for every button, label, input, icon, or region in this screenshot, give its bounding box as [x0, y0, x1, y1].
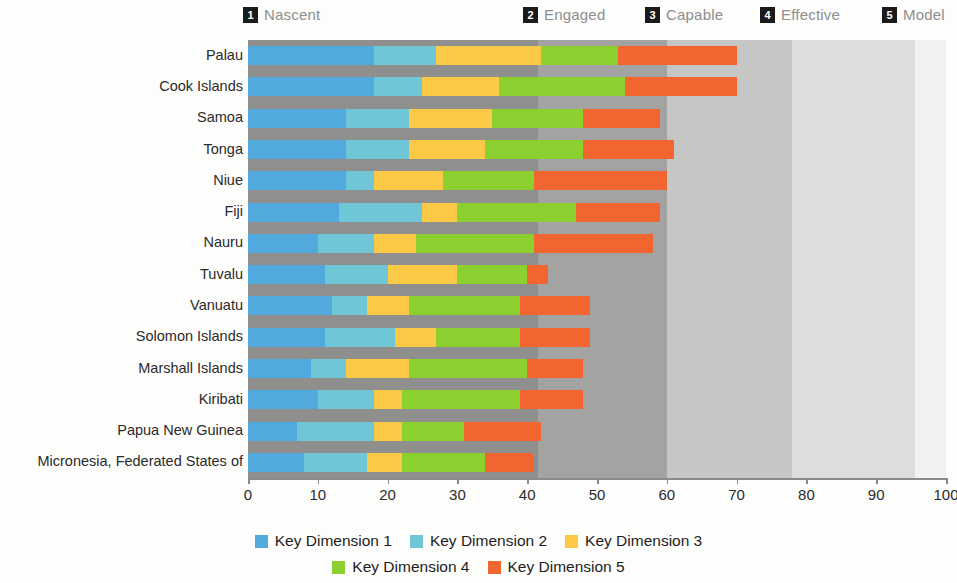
legend-item[interactable]: Key Dimension 2 [410, 532, 547, 550]
bar-segment [248, 77, 374, 96]
bar-row [248, 296, 946, 315]
bar-segment [248, 109, 346, 128]
bar-segment [248, 234, 318, 253]
bar-stack [248, 234, 653, 253]
bar-segment [248, 171, 346, 190]
bar-segment [402, 453, 486, 472]
maturity-tier-model: 5Model [882, 6, 945, 23]
legend-item[interactable]: Key Dimension 3 [565, 532, 702, 550]
y-axis-label: Solomon Islands [0, 328, 243, 344]
maturity-tier-label: Engaged [544, 6, 605, 23]
maturity-tier-header: 1Nascent2Engaged3Capable4Effective5Model [0, 0, 957, 34]
bar-segment [583, 109, 660, 128]
x-axis-tick [806, 478, 808, 484]
legend-swatch [565, 535, 578, 548]
x-axis: 0102030405060708090100 [248, 478, 946, 508]
bar-segment [339, 203, 423, 222]
x-axis-tick-label: 0 [244, 486, 252, 503]
y-axis-label: Tonga [0, 141, 243, 157]
legend-label: Key Dimension 2 [430, 532, 547, 550]
maturity-tier-number: 2 [523, 7, 538, 23]
y-axis-label: Samoa [0, 109, 243, 125]
y-axis-label: Cook Islands [0, 78, 243, 94]
bar-segment [346, 359, 409, 378]
bar-stack [248, 46, 737, 65]
x-axis-tick [667, 478, 669, 484]
legend-item[interactable]: Key Dimension 1 [255, 532, 392, 550]
bar-segment [464, 422, 541, 441]
x-axis-tick-label: 80 [798, 486, 815, 503]
bar-segment [248, 140, 346, 159]
bar-row [248, 422, 946, 441]
y-axis-label: Papua New Guinea [0, 422, 243, 438]
bar-segment [402, 422, 465, 441]
y-axis-label: Niue [0, 172, 243, 188]
bar-segment [374, 390, 402, 409]
bar-stack [248, 422, 541, 441]
bar-segment [325, 328, 395, 347]
bar-segment [436, 46, 541, 65]
bar-row [248, 109, 946, 128]
x-axis-tick-label: 60 [658, 486, 675, 503]
maturity-tier-engaged: 2Engaged [523, 6, 605, 23]
bar-segment [248, 422, 297, 441]
bar-segment [248, 203, 339, 222]
legend-item[interactable]: Key Dimension 4 [332, 558, 469, 576]
bar-segment [520, 390, 583, 409]
bar-segment [409, 296, 521, 315]
y-axis-label: Vanuatu [0, 297, 243, 313]
bar-row [248, 46, 946, 65]
bar-segment [248, 390, 318, 409]
legend-item[interactable]: Key Dimension 5 [488, 558, 625, 576]
bar-segment [625, 77, 737, 96]
bar-stack [248, 109, 660, 128]
legend-row-1: Key Dimension 1Key Dimension 2Key Dimens… [0, 528, 957, 554]
legend-row-2: Key Dimension 4Key Dimension 5 [0, 554, 957, 580]
x-axis-tick [457, 478, 459, 484]
bar-segment [318, 234, 374, 253]
bar-segment [534, 171, 667, 190]
legend-label: Key Dimension 5 [508, 558, 625, 576]
bar-segment [374, 46, 437, 65]
y-axis-label: Tuvalu [0, 266, 243, 282]
legend-swatch [255, 535, 268, 548]
bar-segment [346, 109, 409, 128]
maturity-tier-number: 1 [243, 7, 258, 23]
y-axis-label: Micronesia, Federated States of [0, 453, 243, 469]
bar-stack [248, 359, 583, 378]
bar-segment [248, 359, 311, 378]
bar-segment [457, 265, 527, 284]
bar-row [248, 328, 946, 347]
x-axis-tick-label: 100 [933, 486, 957, 503]
y-axis-labels: PalauCook IslandsSamoaTongaNiueFijiNauru… [0, 40, 243, 478]
x-axis-tick [597, 478, 599, 484]
maturity-tier-label: Model [903, 6, 945, 23]
bar-segment [499, 77, 625, 96]
bar-segment [297, 422, 374, 441]
bar-segment [248, 453, 304, 472]
y-axis-label: Palau [0, 47, 243, 63]
legend-label: Key Dimension 4 [352, 558, 469, 576]
bar-segment [374, 171, 444, 190]
bar-segment [534, 234, 653, 253]
legend: Key Dimension 1Key Dimension 2Key Dimens… [0, 528, 957, 583]
bar-segment [374, 77, 423, 96]
bar-row [248, 140, 946, 159]
maturity-tier-capable: 3Capable [645, 6, 723, 23]
bar-segment [346, 140, 409, 159]
bar-segment [485, 453, 534, 472]
y-axis-label: Fiji [0, 203, 243, 219]
maturity-tier-effective: 4Effective [760, 6, 840, 23]
y-axis-label: Kiribati [0, 391, 243, 407]
bar-stack [248, 203, 660, 222]
maturity-tier-label: Capable [666, 6, 723, 23]
bar-stack [248, 77, 737, 96]
maturity-tier-number: 4 [760, 7, 775, 23]
maturity-tier-number: 5 [882, 7, 897, 23]
x-axis-tick [946, 478, 948, 484]
maturity-tier-label: Effective [781, 6, 840, 23]
bar-row [248, 265, 946, 284]
bar-row [248, 171, 946, 190]
legend-label: Key Dimension 3 [585, 532, 702, 550]
bar-segment [248, 265, 325, 284]
